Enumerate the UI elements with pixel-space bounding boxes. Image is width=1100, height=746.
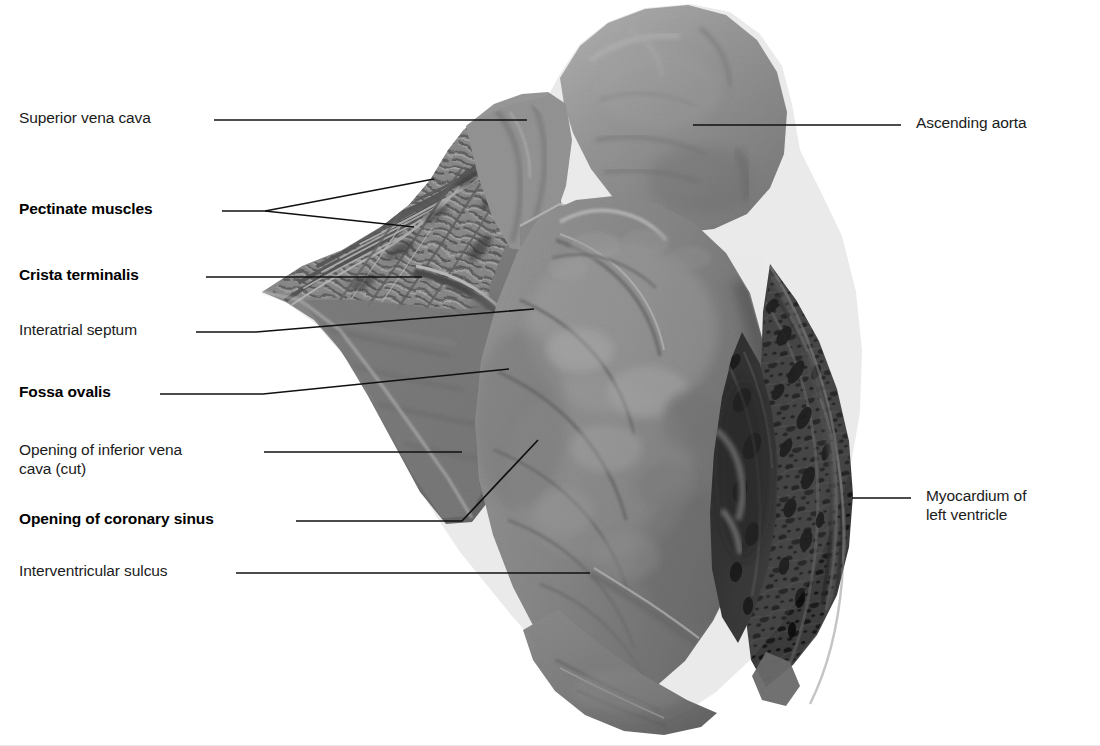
heart-specimen-image <box>0 0 1100 746</box>
label-myocardium-left-ventricle: Myocardium of left ventricle <box>926 486 1026 524</box>
label-opening-inferior-vena-cava: Opening of inferior vena cava (cut) <box>19 440 182 478</box>
label-pectinate-muscles: Pectinate muscles <box>19 199 153 218</box>
label-crista-terminalis: Crista terminalis <box>19 265 139 284</box>
anatomy-figure: Superior vena cava Pectinate muscles Cri… <box>0 0 1100 746</box>
label-interventricular-sulcus: Interventricular sulcus <box>19 561 167 580</box>
label-opening-coronary-sinus: Opening of coronary sinus <box>19 509 214 528</box>
label-superior-vena-cava: Superior vena cava <box>19 108 151 127</box>
label-interatrial-septum: Interatrial septum <box>19 320 137 339</box>
label-fossa-ovalis: Fossa ovalis <box>19 382 111 401</box>
label-ascending-aorta: Ascending aorta <box>916 113 1027 132</box>
